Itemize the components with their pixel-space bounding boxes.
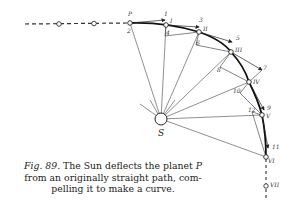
past-position-marker-1 bbox=[57, 22, 62, 27]
sun-label: S bbox=[158, 128, 164, 138]
caption-line-1: Fig. 89. The Sun deflects the planet P bbox=[8, 160, 218, 172]
position-v-marker bbox=[260, 113, 265, 118]
label-iii: III bbox=[234, 46, 243, 53]
sun-icon bbox=[155, 113, 167, 125]
label-1: 1 bbox=[164, 10, 168, 17]
label-12: 12 bbox=[248, 106, 256, 113]
label-6: 6 bbox=[196, 39, 200, 46]
past-position-marker-2 bbox=[92, 21, 97, 26]
future-position-marker-vii bbox=[264, 184, 268, 188]
sun-pull-lines bbox=[165, 25, 266, 157]
caption-line-3: pelling it to make a curve. bbox=[8, 183, 218, 195]
label-vi: VI bbox=[268, 157, 275, 164]
label-8: 8 bbox=[217, 66, 221, 73]
position-iv-marker bbox=[247, 80, 252, 85]
label-3: 3 bbox=[199, 16, 203, 23]
label-7: 7 bbox=[263, 64, 267, 71]
planet-p-marker bbox=[128, 21, 133, 26]
figure-caption: Fig. 89. The Sun deflects the planet P f… bbox=[8, 160, 218, 195]
position-iii-marker bbox=[229, 50, 234, 55]
figure-number: Fig. 89. bbox=[24, 160, 60, 171]
original-straight-path bbox=[25, 21, 128, 26]
label-11: 11 bbox=[272, 143, 280, 150]
label-vii: VII bbox=[270, 181, 280, 188]
label-iv: IV bbox=[252, 78, 260, 85]
label-p: P bbox=[127, 10, 133, 17]
label-v: V bbox=[266, 112, 271, 119]
label-9: 9 bbox=[267, 104, 271, 111]
caption-line-2: from an originally straight path, com- bbox=[8, 172, 218, 184]
label-ii: II bbox=[202, 25, 208, 32]
position-ii-marker bbox=[197, 30, 202, 35]
caption-planet-p: P bbox=[196, 160, 202, 171]
position-i-marker bbox=[164, 23, 169, 28]
label-10: 10 bbox=[233, 87, 241, 94]
continued-straight-path bbox=[264, 159, 268, 198]
caption-text-1: The Sun deflects the planet bbox=[60, 160, 196, 171]
label-2: 2 bbox=[126, 27, 131, 34]
label-4: 4 bbox=[165, 29, 170, 36]
label-5: 5 bbox=[236, 34, 240, 41]
label-i: I bbox=[169, 17, 173, 24]
